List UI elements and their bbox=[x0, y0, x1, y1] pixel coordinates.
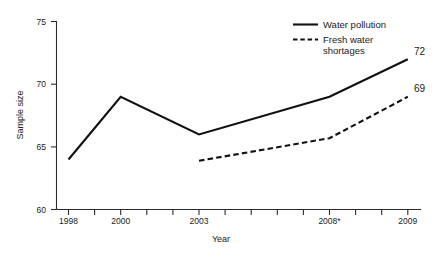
x-axis-title: Year bbox=[212, 234, 230, 244]
x-tick-label-2003: 2003 bbox=[190, 216, 209, 226]
series-water-pollution bbox=[69, 59, 408, 159]
legend-label-water-pollution: Water pollution bbox=[323, 19, 386, 30]
y-tick-label-65: 65 bbox=[37, 142, 47, 152]
data-label-fresh-water-2009: 69 bbox=[414, 83, 426, 94]
x-tick-label-2009: 2009 bbox=[398, 216, 417, 226]
chart-legend: Water pollution Fresh water shortages bbox=[293, 19, 386, 56]
x-tick-marks bbox=[69, 210, 408, 216]
series-fresh-water-shortages bbox=[199, 97, 408, 161]
legend-label-fresh-water-line2: shortages bbox=[323, 45, 365, 56]
chart-svg: 75 70 65 60 1998 2000 2003 2 bbox=[0, 0, 443, 256]
x-tick-label-1998: 1998 bbox=[59, 216, 78, 226]
y-tick-label-60: 60 bbox=[37, 205, 47, 215]
x-tick-labels: 1998 2000 2003 2008* 2009 bbox=[59, 216, 417, 226]
x-tick-label-2000: 2000 bbox=[111, 216, 130, 226]
legend-label-fresh-water-line1: Fresh water bbox=[323, 34, 373, 45]
y-tick-marks bbox=[51, 22, 57, 210]
y-tick-labels: 75 70 65 60 bbox=[37, 17, 47, 215]
x-tick-label-2008: 2008* bbox=[318, 216, 341, 226]
y-tick-label-75: 75 bbox=[37, 17, 47, 27]
y-tick-label-70: 70 bbox=[37, 79, 47, 89]
line-chart: 75 70 65 60 1998 2000 2003 2 bbox=[0, 0, 443, 256]
data-label-water-pollution-2009: 72 bbox=[414, 46, 426, 57]
y-axis-title: Sample size bbox=[15, 90, 25, 139]
